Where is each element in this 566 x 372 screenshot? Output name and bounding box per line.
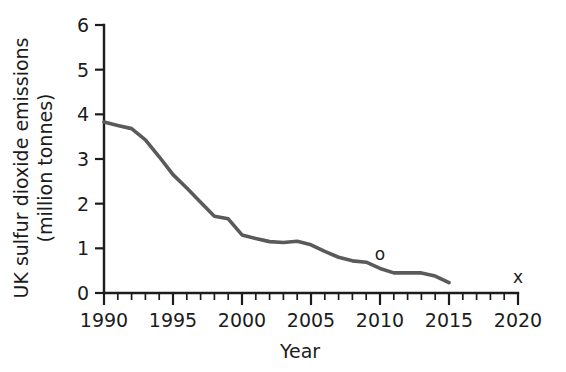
y-axis-title-line2: (million tonnes) — [34, 94, 56, 243]
x-axis-title: Year — [279, 340, 320, 362]
chart-container: 0123456 1990199520002005201020152020 ox … — [0, 0, 566, 372]
series-line-0 — [104, 122, 449, 283]
y-axis-ticks — [95, 25, 104, 293]
y-axis-title-line1: UK sulfur dioxide emissions — [10, 37, 32, 298]
axis-spines — [104, 25, 518, 293]
x-tick-label-2010: 2010 — [356, 309, 404, 331]
y-tick-label-4: 4 — [77, 103, 89, 125]
marker-o: o — [375, 244, 385, 264]
y-tick-label-1: 1 — [77, 237, 89, 259]
x-tick-label-2000: 2000 — [218, 309, 266, 331]
x-axis-tick-labels: 1990199520002005201020152020 — [80, 309, 542, 331]
x-tick-label-1990: 1990 — [80, 309, 128, 331]
y-tick-label-0: 0 — [77, 282, 89, 304]
y-tick-label-6: 6 — [77, 14, 89, 36]
x-tick-label-2005: 2005 — [287, 309, 335, 331]
y-tick-label-5: 5 — [77, 59, 89, 81]
y-tick-label-2: 2 — [77, 193, 89, 215]
x-tick-label-2020: 2020 — [494, 309, 542, 331]
y-tick-label-3: 3 — [77, 148, 89, 170]
axes — [104, 25, 518, 293]
y-axis-tick-labels: 0123456 — [77, 14, 89, 304]
x-tick-label-1995: 1995 — [149, 309, 197, 331]
chart-plot-area: 0123456 1990199520002005201020152020 ox … — [0, 0, 566, 372]
marker-x: x — [513, 267, 523, 287]
x-axis-ticks — [104, 293, 518, 305]
data-series — [104, 122, 449, 283]
x-tick-label-2015: 2015 — [425, 309, 473, 331]
annotations: ox — [375, 244, 523, 286]
